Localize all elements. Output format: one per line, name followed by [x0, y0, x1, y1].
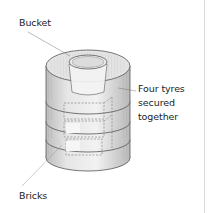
frame-border [204, 0, 205, 213]
bricks-label: Bricks [19, 189, 47, 203]
tyre-stack-illustration: Bucket Four tyres secured together Brick… [0, 0, 207, 213]
tyres-label: Four tyres secured together [138, 82, 185, 124]
bucket-label: Bucket [19, 16, 51, 30]
bucket-leader-line [28, 32, 70, 56]
tyres-label-line-2: secured [138, 96, 185, 110]
bucket [69, 55, 107, 95]
tyres-label-line-1: Four tyres [138, 82, 185, 96]
tyres-label-line-3: together [138, 110, 185, 124]
